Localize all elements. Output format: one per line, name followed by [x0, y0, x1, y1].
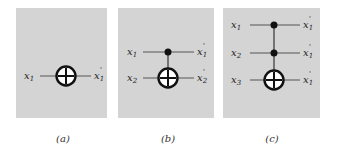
svg-text:x1: x1: [231, 19, 241, 32]
svg-text:x3: x3: [231, 74, 242, 87]
toffoli-circuit: x1 x2 x3 x1' x1' x1': [231, 15, 313, 90]
caption-a: (a): [56, 133, 70, 144]
control-dot-icon: [271, 22, 278, 29]
not-gate-circuit: x1 x1': [24, 66, 104, 86]
svg-text:x2': x2': [197, 68, 208, 85]
svg-text:x2: x2: [127, 72, 138, 85]
svg-text:x2: x2: [231, 47, 242, 60]
cnot-circuit: x1 x2 x1' x2': [127, 42, 208, 88]
caption-b: (b): [161, 133, 175, 144]
control-dot-icon: [165, 49, 172, 56]
svg-text:x1': x1': [303, 43, 313, 60]
svg-text:x1': x1': [94, 66, 104, 83]
svg-text:x1': x1': [303, 15, 313, 32]
svg-text:x1': x1': [303, 70, 313, 87]
svg-text:x1': x1': [197, 42, 207, 59]
svg-text:x1: x1: [127, 46, 137, 59]
caption-c: (c): [265, 133, 278, 144]
svg-text:x1: x1: [24, 70, 34, 83]
control-dot-icon: [271, 50, 278, 57]
